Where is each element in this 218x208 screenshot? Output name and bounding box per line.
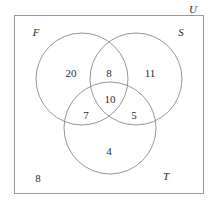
- region-value-fst: 10: [105, 94, 116, 105]
- region-value-outside: 8: [35, 173, 41, 184]
- region-value-ft-only: 7: [83, 110, 89, 121]
- region-value-t-only: 4: [106, 146, 112, 157]
- region-value-fs-only: 8: [106, 68, 112, 79]
- region-value-st-only: 5: [131, 110, 137, 121]
- venn-diagram: U F S T 20 8 11 7 10 5 4 8: [0, 0, 218, 208]
- circle-set-f: [36, 33, 128, 125]
- set-label-t: T: [163, 171, 169, 182]
- universe-label: U: [189, 4, 197, 15]
- region-value-s-only: 11: [145, 68, 156, 79]
- set-label-f: F: [33, 27, 40, 38]
- set-label-s: S: [178, 27, 184, 38]
- region-value-f-only: 20: [66, 68, 77, 79]
